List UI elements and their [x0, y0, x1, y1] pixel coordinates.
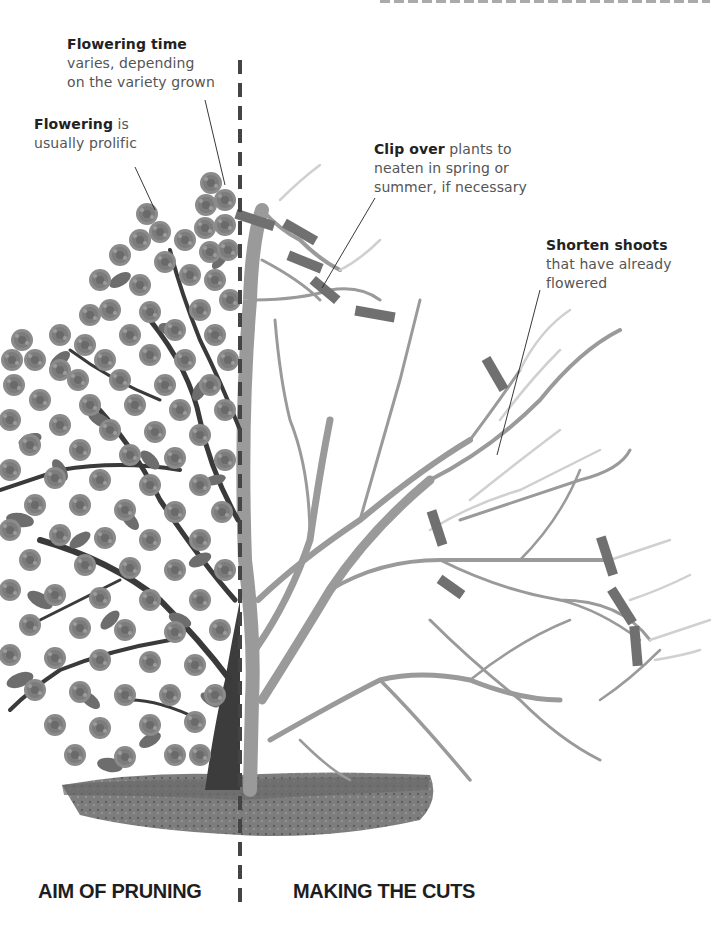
- label-shorten-shoots-bold: Shorten shoots: [546, 237, 668, 253]
- label-flowering: Flowering is usually prolific: [34, 115, 137, 153]
- label-shorten-shoots-line1: that have already: [546, 256, 672, 272]
- flowering-canopy: [0, 172, 241, 790]
- label-clip-over-line1: neaten in spring or: [374, 160, 509, 176]
- label-clip-over-bold: Clip over: [374, 141, 445, 157]
- label-flowering-time: Flowering time varies, depending on the …: [67, 35, 215, 92]
- pruned-branches: [243, 210, 660, 790]
- label-clip-over: Clip over plants to neaten in spring or …: [374, 140, 527, 197]
- label-flowering-time-line1: varies, depending: [67, 55, 194, 71]
- label-flowering-time-bold: Flowering time: [67, 36, 187, 52]
- label-clip-over-line2: summer, if necessary: [374, 179, 527, 195]
- label-flowering-line1: usually prolific: [34, 135, 137, 151]
- label-flowering-bold: Flowering: [34, 116, 113, 132]
- label-flowering-inline: is: [113, 116, 129, 132]
- label-clip-over-inline: plants to: [445, 141, 512, 157]
- label-flowering-time-line2: on the variety grown: [67, 74, 215, 90]
- section-title-making-the-cuts: MAKING THE CUTS: [293, 880, 475, 903]
- label-shorten-shoots: Shorten shoots that have already flowere…: [546, 236, 672, 293]
- flower-clusters: [0, 172, 241, 768]
- section-title-aim-of-pruning: AIM OF PRUNING: [38, 880, 202, 903]
- label-shorten-shoots-line2: flowered: [546, 275, 607, 291]
